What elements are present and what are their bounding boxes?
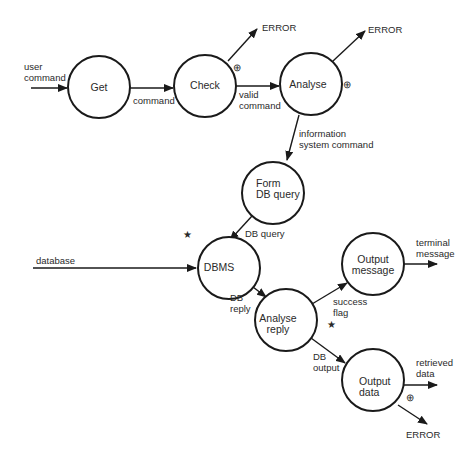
label-success-flag: success: [333, 296, 368, 307]
star-icon-analyse-reply: ★: [327, 319, 336, 330]
svg-text:DB query: DB query: [256, 188, 301, 200]
label-analyse-error: ERROR: [368, 24, 402, 35]
process-analyse-reply: Analyse reply: [255, 289, 317, 351]
flow-information-system-command: [287, 115, 299, 160]
svg-text:Analyse: Analyse: [289, 78, 327, 90]
flow-db-reply: [253, 287, 266, 297]
label-information-system-command: information: [299, 128, 346, 139]
star-icon-dbms: ★: [183, 229, 192, 240]
xor-icon-analyse: ⊕: [343, 79, 351, 90]
label-valid-command-2: command: [239, 100, 281, 111]
label-output-error: ERROR: [406, 429, 440, 440]
svg-text:data: data: [359, 386, 380, 398]
xor-icon-check: ⊕: [233, 62, 241, 73]
svg-text:message: message: [352, 264, 395, 276]
label-db-output: DB: [313, 351, 326, 362]
label-terminal-message-2: message: [416, 248, 455, 259]
data-flow-diagram: Get Check Analyse Form DB query DBMS Ana…: [0, 0, 471, 455]
process-form-db-query: Form DB query: [242, 162, 304, 224]
label-db-query: DB query: [245, 228, 285, 239]
label-terminal-message: terminal: [416, 237, 450, 248]
label-user-command: user: [24, 61, 42, 72]
process-output-data: Output data: [342, 349, 404, 411]
process-analyse: Analyse: [280, 53, 342, 115]
label-db-reply-2: reply: [230, 303, 251, 314]
label-success-flag-2: flag: [333, 307, 348, 318]
flow-check-error: [228, 29, 257, 61]
svg-text:Check: Check: [190, 79, 221, 91]
process-get: Get: [68, 56, 130, 118]
label-check-error: ERROR: [262, 22, 296, 33]
label-information-system-command-2: system command: [299, 139, 373, 150]
label-command: command: [133, 95, 175, 106]
label-user-command-2: command: [24, 72, 66, 83]
process-check: Check: [174, 55, 236, 117]
svg-text:DBMS: DBMS: [204, 261, 234, 273]
svg-text:Get: Get: [91, 81, 108, 93]
label-retrieved-data: retrieved: [416, 357, 453, 368]
process-dbms: DBMS: [198, 237, 260, 299]
label-db-output-2: output: [313, 362, 340, 373]
label-valid-command: valid: [239, 89, 259, 100]
flow-analyse-error: [333, 31, 365, 61]
flow-output-error: [398, 405, 427, 424]
label-retrieved-data-2: data: [416, 368, 435, 379]
label-database: database: [36, 255, 75, 266]
process-output-message: Output message: [342, 233, 404, 295]
xor-icon-output-data: ⊕: [406, 392, 414, 403]
svg-text:reply: reply: [267, 323, 291, 335]
label-db-reply: DB: [230, 292, 243, 303]
